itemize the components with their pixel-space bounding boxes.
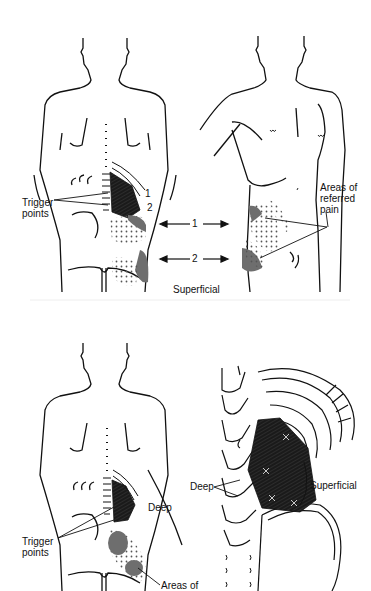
referred-pain-bottom-left [108, 530, 146, 582]
sacrum-foramina [226, 555, 251, 587]
label-trigger-points-top: Trigger points [22, 197, 53, 219]
label-number-1-top-left: 1 [145, 188, 151, 199]
label-areas-referred-pain: Areas of referred pain [320, 182, 357, 215]
label-areas-of: Areas of [161, 580, 198, 591]
trigger-pointer-lines-top-left [54, 193, 108, 205]
referred-pain-top-right [242, 200, 290, 272]
label-trigger-points-bottom: Trigger points [22, 536, 53, 558]
label-arrow-1: 1 [192, 218, 198, 229]
top-right-figure [200, 36, 345, 292]
top-left-figure [34, 38, 176, 292]
spine-marks-bottom-left [103, 428, 111, 514]
label-superficial-bottom-right: Superficial [310, 480, 357, 491]
spine-marks-top-left [102, 124, 110, 210]
referred-pain-top-left [110, 215, 148, 286]
label-number-2-top-left: 2 [147, 202, 153, 213]
anatomy-diagram [0, 0, 371, 591]
quadratus-lumborum-muscle [248, 418, 316, 512]
label-deep-bottom-left: Deep [148, 502, 172, 513]
nipples-top-right [270, 130, 324, 190]
label-deep-bottom-right: Deep [190, 481, 214, 492]
label-superficial-top: Superficial [173, 284, 220, 295]
label-arrow-2: 2 [192, 253, 198, 264]
